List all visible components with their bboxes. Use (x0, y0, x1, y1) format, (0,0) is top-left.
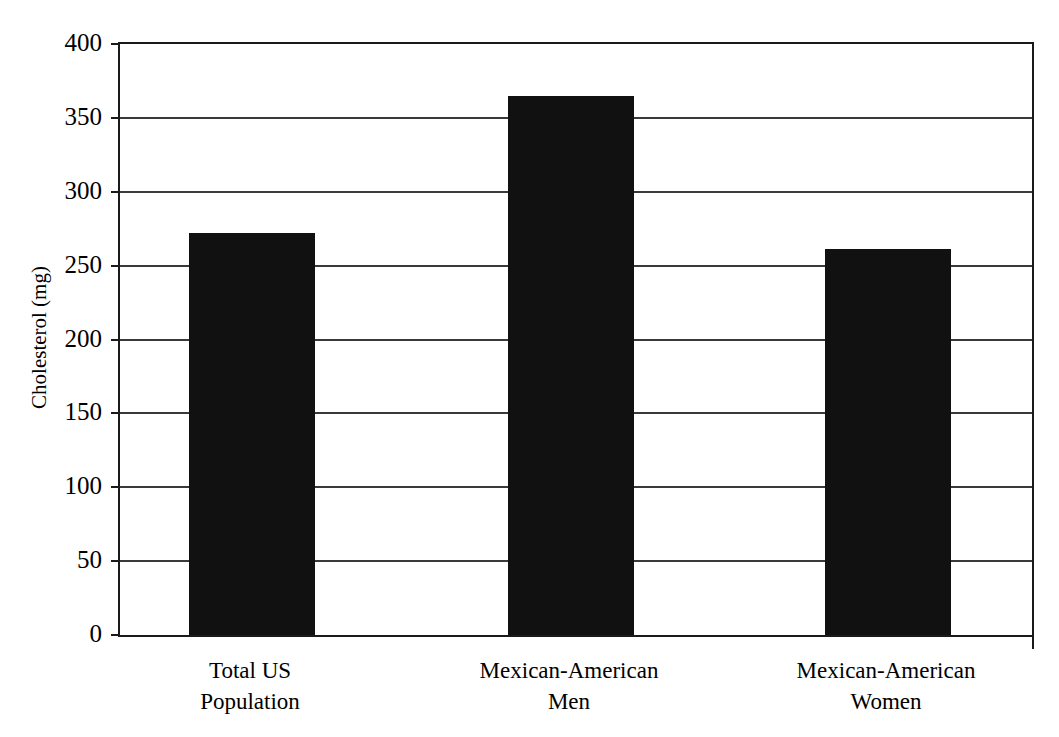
x-axis-category-label-line1: Total US (90, 655, 410, 686)
x-axis-category-label-line2: Population (90, 686, 410, 717)
y-axis-tickmark (111, 560, 119, 562)
y-axis-tick-label-text: 250 (38, 251, 102, 276)
x-axis-category-label: Total USPopulation (90, 655, 410, 717)
y-axis-tick-label-text: 200 (38, 325, 102, 350)
plot-area (118, 42, 1034, 637)
bar-chart: Cholesterol (mg) 40035030025020015010050… (0, 0, 1059, 737)
y-axis-tick-label-text: 400 (38, 30, 102, 55)
y-axis-tickmark (111, 634, 119, 636)
y-axis-tick-label-text: 50 (38, 547, 102, 572)
x-axis-category-label-line1: Mexican-American (409, 655, 729, 686)
x-axis-end-tick (1032, 637, 1034, 649)
y-axis-tickmark (111, 265, 119, 267)
y-axis-tickmark (111, 43, 119, 45)
y-axis-tickmark (111, 191, 119, 193)
x-axis-category-label: Mexican-AmericanWomen (726, 655, 1046, 717)
y-axis-tickmark (111, 117, 119, 119)
x-axis-category-label: Mexican-AmericanMen (409, 655, 729, 717)
bar (825, 249, 951, 635)
y-axis-tickmark (111, 412, 119, 414)
bar (508, 96, 634, 635)
x-axis-category-label-line2: Women (726, 686, 1046, 717)
y-axis-tick-label-text: 0 (38, 621, 102, 646)
y-axis-tick-label-text: 350 (38, 103, 102, 128)
y-axis-tick-label-text: 300 (38, 177, 102, 202)
y-axis-tickmark (111, 339, 119, 341)
bar (189, 233, 315, 635)
x-axis-category-label-line1: Mexican-American (726, 655, 1046, 686)
x-axis-category-label-line2: Men (409, 686, 729, 717)
y-axis-tickmark (111, 486, 119, 488)
y-axis-tick-label-text: 150 (38, 399, 102, 424)
y-axis-tick-label-text: 100 (38, 473, 102, 498)
